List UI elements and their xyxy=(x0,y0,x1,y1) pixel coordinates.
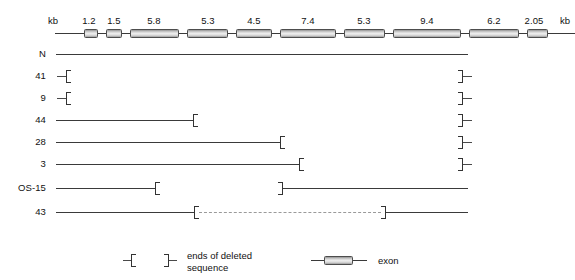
allele-label-OS-15: OS-15 xyxy=(0,183,46,193)
exon-box-5 xyxy=(236,29,272,38)
deletion-start-bracket-3 xyxy=(299,158,304,171)
exon-size-label-5: 4.5 xyxy=(241,16,267,26)
exon-size-label-2: 1.5 xyxy=(101,16,127,26)
allele-label-3: 3 xyxy=(0,159,46,169)
axis-unit-label-left: kb xyxy=(44,16,62,26)
allele-label-N: N xyxy=(0,49,46,59)
allele-line-43-left xyxy=(56,212,194,213)
exon-size-label-3: 5.8 xyxy=(141,16,167,26)
allele-line-3-left xyxy=(56,164,299,165)
allele-label-43: 43 xyxy=(0,207,46,217)
legend-deletion-start-bracket-icon xyxy=(131,254,136,267)
exon-box-4 xyxy=(187,29,228,38)
exon-box-1 xyxy=(84,29,98,38)
exon-box-7 xyxy=(344,29,385,38)
exon-size-label-10: 2.05 xyxy=(518,16,550,26)
legend-bracket-right-stub xyxy=(169,260,177,261)
allele-line-3-right-stub xyxy=(463,164,472,165)
legend: ends of deleted sequence exon xyxy=(0,242,492,280)
allele-line-28-right-stub xyxy=(463,142,472,143)
legend-label-exon: exon xyxy=(378,255,438,267)
allele-line-OS-15-right xyxy=(283,188,468,189)
exon-box-2 xyxy=(106,29,122,38)
allele-line-41-right-stub xyxy=(463,76,472,77)
exon-box-6 xyxy=(280,29,336,38)
exon-box-3 xyxy=(130,29,179,38)
allele-line-41-left-stub xyxy=(57,76,66,77)
exon-box-8 xyxy=(393,29,461,38)
allele-label-28: 28 xyxy=(0,137,46,147)
deleted-region-dashed-43 xyxy=(199,212,381,213)
legend-exon-box-icon xyxy=(324,256,353,265)
exon-size-label-7: 5.3 xyxy=(351,16,377,26)
allele-line-N xyxy=(56,54,468,55)
allele-line-43-right xyxy=(386,212,468,213)
allele-line-9-left-stub xyxy=(57,98,66,99)
exon-box-10 xyxy=(527,29,548,38)
deletion-start-bracket-OS-15 xyxy=(155,182,160,195)
legend-bracket-left-stub xyxy=(123,260,131,261)
allele-label-41: 41 xyxy=(0,71,46,81)
deletion-start-bracket-9 xyxy=(66,92,71,105)
exon-size-label-1: 1.2 xyxy=(76,16,102,26)
exon-size-label-8: 9.4 xyxy=(414,16,440,26)
allele-line-44-right-stub xyxy=(463,120,472,121)
exon-size-label-4: 5.3 xyxy=(195,16,221,26)
exon-size-label-6: 7.4 xyxy=(295,16,321,26)
exon-box-9 xyxy=(469,29,519,38)
deletion-start-bracket-41 xyxy=(66,70,71,83)
deletion-start-bracket-44 xyxy=(193,114,198,127)
allele-line-OS-15-left xyxy=(56,188,155,189)
allele-label-9: 9 xyxy=(0,93,46,103)
allele-line-44-left xyxy=(56,120,193,121)
allele-label-44: 44 xyxy=(0,115,46,125)
legend-label-deleted-ends: ends of deleted sequence xyxy=(187,250,327,273)
deletion-start-bracket-28 xyxy=(280,136,285,149)
allele-line-28-left xyxy=(56,142,280,143)
allele-line-9-right-stub xyxy=(463,98,472,99)
exon-size-label-9: 6.2 xyxy=(481,16,507,26)
axis-unit-label-right: kb xyxy=(555,16,575,26)
